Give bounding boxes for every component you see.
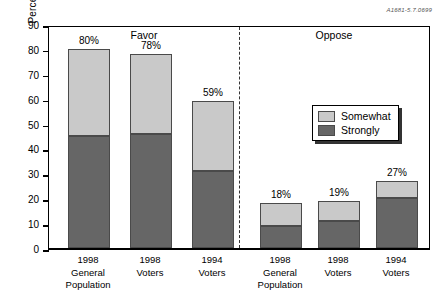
legend-item-strongly: Strongly [318,123,391,137]
y-tick-mark [43,175,49,177]
y-tick-mark [43,51,49,53]
y-tick-label: 20 [15,194,39,205]
y-tick-mark [43,250,49,252]
bar-5[interactable]: 19% [318,201,360,248]
y-tick-label: 60 [15,95,39,106]
bar-value-label: 78% [141,40,161,51]
bar-segment-somewhat [318,201,360,221]
y-tick-label: 30 [15,169,39,180]
y-axis-title: Percentage [27,0,38,77]
y-tick-label: 0 [15,244,39,255]
legend-label-strongly: Strongly [341,124,380,136]
legend-label-somewhat: Somewhat [341,110,391,122]
bar-segment-somewhat [68,49,110,136]
y-tick-label: 40 [15,144,39,155]
document-code: A1681-5.7.0699 [386,7,432,13]
x-label-line: Voters [351,267,438,280]
y-tick-label: 80 [15,45,39,56]
bar-segment-somewhat [192,101,234,171]
x-label-6: 1994Voters [351,254,438,279]
bar-segment-somewhat [130,54,172,134]
bar-segment-somewhat [376,181,418,198]
bar-segment-strongly [68,136,110,248]
bar-segment-strongly [192,171,234,248]
y-tick-mark [43,225,49,227]
bar-value-label: 80% [79,35,99,46]
bar-3[interactable]: 59% [192,101,234,248]
x-label-line: Population [235,279,325,292]
legend-swatch-somewhat [318,111,335,122]
bar-segment-somewhat [260,203,302,225]
plot-area: Percentage 0102030405060708090 Favor Opp… [48,26,430,250]
bar-segment-strongly [318,221,360,248]
group-divider [239,27,240,248]
y-tick-label: 70 [15,70,39,81]
bar-6[interactable]: 27% [376,181,418,248]
x-label-line: Population [43,279,133,292]
y-tick-mark [43,26,49,28]
y-tick-label: 50 [15,120,39,131]
legend-swatch-strongly [318,125,335,136]
y-tick-mark [43,126,49,128]
y-tick-mark [43,200,49,202]
y-tick-label: 90 [15,20,39,31]
bar-value-label: 59% [203,87,223,98]
bar-value-label: 18% [271,189,291,200]
bar-value-label: 19% [329,187,349,198]
x-label-line: 1994 [351,254,438,267]
bar-value-label: 27% [387,167,407,178]
y-tick-mark [43,150,49,152]
bar-4[interactable]: 18% [260,203,302,248]
y-tick-mark [43,76,49,78]
bar-2[interactable]: 78% [130,54,172,248]
legend-item-somewhat: Somewhat [318,109,391,123]
chart-legend: Somewhat Strongly [312,105,399,141]
y-tick-mark [43,101,49,103]
section-label-oppose: Oppose [239,29,429,41]
bar-segment-strongly [376,198,418,248]
bar-segment-strongly [260,226,302,248]
bar-1[interactable]: 80% [68,49,110,248]
y-tick-label: 10 [15,219,39,230]
bar-segment-strongly [130,134,172,248]
chart-figure: A1681-5.7.0699 Percentage 01020304050607… [0,0,438,305]
